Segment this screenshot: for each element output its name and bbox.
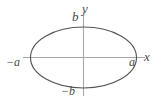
bottom-vertex-label: −b	[61, 85, 75, 97]
left-vertex-label: −a	[6, 56, 20, 68]
x-axis-label: x	[144, 50, 150, 63]
top-vertex-label: b	[72, 10, 79, 23]
right-vertex-label: a	[129, 56, 135, 68]
ellipse-figure: y b x a −a −b	[0, 0, 164, 105]
y-axis-label: y	[82, 2, 88, 15]
